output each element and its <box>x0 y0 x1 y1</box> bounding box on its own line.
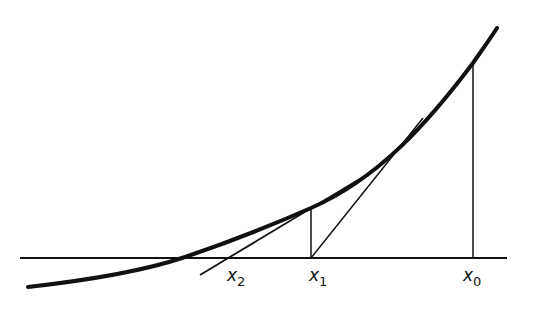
label-x2: x2 <box>226 265 245 289</box>
label-x1: x1 <box>308 265 327 289</box>
function-curve <box>28 28 497 287</box>
newton-method-diagram: x2 x1 x0 <box>0 0 535 310</box>
tangent-line-at-x1 <box>200 168 378 275</box>
label-x0: x0 <box>462 265 481 289</box>
tangent-line-at-x0 <box>311 118 423 258</box>
